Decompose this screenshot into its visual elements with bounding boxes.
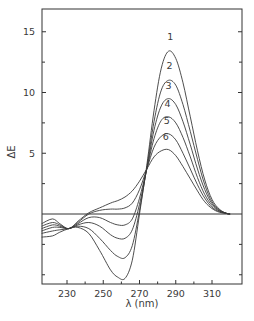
spectrum-curve-1 bbox=[42, 51, 231, 280]
y-tick-label: 15 bbox=[23, 26, 35, 37]
curve-label-6: 6 bbox=[163, 131, 169, 142]
y-tick-label: 5 bbox=[29, 148, 35, 159]
curve-label-5: 5 bbox=[164, 115, 170, 126]
curve-number-labels: 123456 bbox=[163, 31, 174, 142]
plot-frame bbox=[42, 9, 242, 284]
x-tick-label: 230 bbox=[58, 288, 76, 299]
cd-spectrum-chart: 23025027029031051015 123456 λ (nm) ΔE bbox=[0, 0, 254, 321]
spectrum-curves bbox=[42, 51, 231, 280]
axis-ticks bbox=[42, 32, 242, 284]
x-tick-label: 290 bbox=[167, 288, 185, 299]
curve-label-2: 2 bbox=[166, 60, 172, 71]
curve-label-1: 1 bbox=[167, 31, 173, 42]
y-axis-label: ΔE bbox=[6, 145, 17, 158]
curve-label-3: 3 bbox=[165, 80, 171, 91]
curve-label-4: 4 bbox=[165, 98, 171, 109]
x-tick-label: 310 bbox=[203, 288, 221, 299]
y-tick-label: 10 bbox=[23, 87, 35, 98]
x-axis-label: λ (nm) bbox=[126, 298, 159, 309]
x-tick-label: 250 bbox=[94, 288, 112, 299]
spectrum-curve-4 bbox=[42, 117, 231, 229]
